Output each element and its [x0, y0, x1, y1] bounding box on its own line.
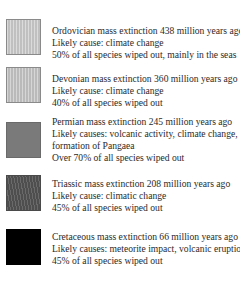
extinction-legend: Ordovician mass extinction 438 million y… — [0, 0, 240, 283]
triassic-text: Triassic mass extinction 208 million yea… — [52, 178, 238, 214]
cretaceous-title: Cretaceous mass extinction 66 million ye… — [52, 231, 238, 243]
ordovician-impact: 50% of all species wiped out, mainly in … — [52, 49, 238, 61]
devonian-impact: 40% of all species wiped out — [52, 97, 238, 109]
cretaceous-swatch — [6, 229, 41, 265]
triassic-impact: 45% of all species wiped out — [52, 202, 238, 214]
devonian-swatch — [6, 67, 41, 103]
devonian-title: Devonian mass extinction 360 million yea… — [52, 73, 238, 85]
triassic-cause: Likely cause: climatic change — [52, 190, 238, 202]
permian-text: Permian mass extinction 245 million year… — [52, 116, 238, 164]
ordovician-cause: Likely cause: climate change — [52, 37, 238, 49]
devonian-text: Devonian mass extinction 360 million yea… — [52, 73, 238, 109]
permian-cause: Likely causes: volcanic activity, climat… — [52, 128, 238, 140]
cretaceous-cause: Likely causes: meteorite impact, volcani… — [52, 243, 238, 255]
permian-title: Permian mass extinction 245 million year… — [52, 116, 238, 128]
permian-impact: Over 70% of all species wiped out — [52, 152, 238, 164]
triassic-swatch — [6, 175, 41, 211]
permian-cause-continued: formation of Pangaea — [52, 140, 238, 152]
triassic-title: Triassic mass extinction 208 million yea… — [52, 178, 238, 190]
ordovician-swatch — [6, 19, 41, 55]
devonian-cause: Likely cause: climate change — [52, 85, 238, 97]
ordovician-title: Ordovician mass extinction 438 million y… — [52, 25, 238, 37]
ordovician-text: Ordovician mass extinction 438 million y… — [52, 25, 238, 61]
cretaceous-impact: 45% of all species wiped out — [52, 255, 238, 267]
cretaceous-text: Cretaceous mass extinction 66 million ye… — [52, 231, 238, 267]
permian-swatch — [6, 122, 41, 158]
